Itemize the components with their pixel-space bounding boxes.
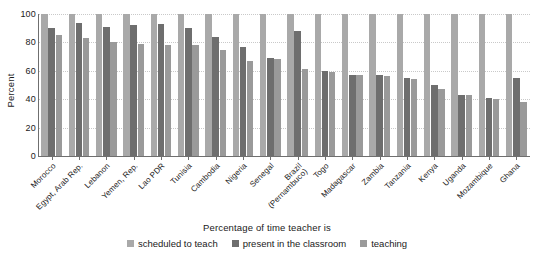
bar [220,50,227,157]
bar [274,59,281,156]
plot-area [38,14,530,156]
legend-label: teaching [371,238,407,249]
bar-group [178,14,199,156]
bar [267,58,274,156]
bar [56,35,63,156]
bar-group [69,14,90,156]
bar-group [260,14,281,156]
bar-group [287,14,308,156]
legend-swatch-icon [127,240,134,247]
bar [110,42,117,156]
bar [205,14,212,156]
bar [192,45,199,156]
bar [486,98,493,156]
bar [158,24,165,156]
legend-item[interactable]: teaching [360,238,407,249]
bar [185,28,192,156]
y-axis-title: Percent [5,51,16,131]
y-tick-label: 100 [2,9,36,19]
bar [493,99,500,156]
bar-group [205,14,226,156]
bar [48,28,55,156]
bar [506,14,513,156]
bar [329,72,336,156]
bar [294,31,301,156]
bar-group [315,14,336,156]
bar [41,14,48,156]
bar [404,78,411,156]
bar-group [451,14,472,156]
y-tick-label: 0 [2,151,36,161]
bar [165,45,172,156]
bar [451,14,458,156]
x-tick [325,156,326,160]
bar [83,38,90,156]
bar-group [151,14,172,156]
bar [520,102,527,156]
bar [458,95,465,156]
bar-group [41,14,62,156]
bar [342,14,349,156]
bar [76,23,83,156]
bar [397,14,404,156]
bar [260,14,267,156]
bar [513,78,520,156]
bar [431,85,438,156]
bar [349,75,356,156]
x-tick [270,156,271,160]
bar-group [342,14,363,156]
bar [138,44,145,156]
x-axis-line [38,156,530,157]
bar [212,37,219,156]
bar [151,14,158,156]
bar [103,27,110,156]
x-tick [462,156,463,160]
bar [233,14,240,156]
x-tick [243,156,244,160]
y-axis-line [38,14,39,156]
legend: scheduled to teachpresent in the classro… [0,238,534,249]
y-tick-label: 80 [2,37,36,47]
bar-group [233,14,254,156]
x-tick [352,156,353,160]
bar [322,71,329,156]
x-tick [161,156,162,160]
x-tick [516,156,517,160]
bar [466,95,473,156]
x-tick [380,156,381,160]
bar [438,89,445,156]
legend-label: present in the classroom [243,238,347,249]
bar [69,14,76,156]
bar [369,14,376,156]
bar [240,47,247,156]
bar [178,14,185,156]
x-tick [407,156,408,160]
bar [247,61,254,156]
x-tick [79,156,80,160]
bar [287,14,294,156]
bar [130,25,137,156]
bar-group [506,14,527,156]
bar [424,14,431,156]
x-tick [489,156,490,160]
bar [479,14,486,156]
bar [411,79,418,156]
bar-group [369,14,390,156]
bar [302,69,309,156]
x-tick [188,156,189,160]
bar-group [397,14,418,156]
bar [376,75,383,156]
bar-chart: 100806040200 Percent MoroccoEgypt, Arab … [0,0,534,263]
bar-group [479,14,500,156]
x-tick [106,156,107,160]
x-tick [298,156,299,160]
legend-swatch-icon [232,240,239,247]
legend-item[interactable]: present in the classroom [232,238,347,249]
bar [96,14,103,156]
bar [384,76,391,156]
bar [356,75,363,156]
bar-group [123,14,144,156]
x-tick [134,156,135,160]
legend-item[interactable]: scheduled to teach [127,238,218,249]
legend-title: Percentage of time teacher is [0,222,534,233]
